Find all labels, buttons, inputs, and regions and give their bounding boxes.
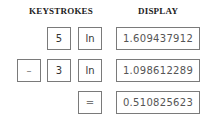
display-value: 1.098612289 bbox=[116, 59, 200, 82]
key-3[interactable]: 3 bbox=[47, 59, 71, 82]
key-5[interactable]: 5 bbox=[47, 27, 71, 50]
key-ln[interactable]: ln bbox=[78, 59, 102, 82]
key-equals[interactable]: = bbox=[78, 91, 102, 114]
display-header: DISPLAY bbox=[138, 6, 178, 16]
display-value: 1.609437912 bbox=[116, 27, 200, 50]
key-ln[interactable]: ln bbox=[78, 27, 102, 50]
display-value: 0.510825623 bbox=[116, 91, 200, 114]
keystrokes-header: KEYSTROKES bbox=[29, 6, 93, 16]
key-minus[interactable]: – bbox=[17, 59, 41, 82]
